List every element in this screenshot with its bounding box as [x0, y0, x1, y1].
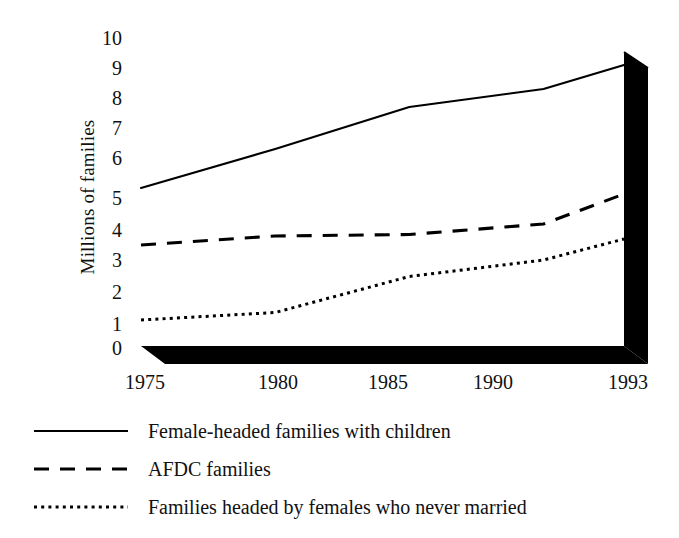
y-tick-10: 10	[88, 28, 122, 48]
legend-label-afdc: AFDC families	[148, 457, 271, 481]
legend-label-female-headed: Female-headed families with children	[148, 419, 451, 443]
legend-item-afdc: AFDC families	[0, 450, 679, 488]
y-tick-4: 4	[88, 220, 122, 240]
legend-swatch-solid-line	[32, 412, 130, 450]
y-tick-1: 1	[88, 314, 122, 334]
chart-right-wall-3d	[624, 52, 648, 364]
chart-figure: Millions of families 10 9 8 7 6 5 4 3 2 …	[0, 0, 679, 538]
y-tick-0: 0	[88, 338, 122, 358]
series-line-never-married	[141, 239, 624, 320]
y-tick-7: 7	[88, 118, 122, 138]
series-line-female-headed	[141, 65, 624, 188]
x-tick-1993: 1993	[588, 372, 668, 392]
legend-swatch-dashed-line	[32, 450, 130, 488]
y-tick-9: 9	[88, 58, 122, 78]
y-tick-5: 5	[88, 188, 122, 208]
y-tick-3: 3	[88, 250, 122, 270]
y-tick-2: 2	[88, 282, 122, 302]
legend-swatch-dotted-line	[32, 488, 130, 526]
y-tick-8: 8	[88, 88, 122, 108]
x-tick-1980: 1980	[238, 372, 318, 392]
series-line-afdc	[141, 194, 624, 245]
x-tick-1990: 1990	[453, 372, 533, 392]
x-tick-1975: 1975	[105, 372, 185, 392]
y-tick-6: 6	[88, 148, 122, 168]
legend-label-never-married: Families headed by females who never mar…	[148, 495, 527, 519]
chart-floor-3d	[141, 346, 648, 364]
x-tick-1985: 1985	[348, 372, 428, 392]
chart-legend: Female-headed families with children AFD…	[0, 412, 679, 526]
legend-item-female-headed: Female-headed families with children	[0, 412, 679, 450]
legend-item-never-married: Families headed by females who never mar…	[0, 488, 679, 526]
